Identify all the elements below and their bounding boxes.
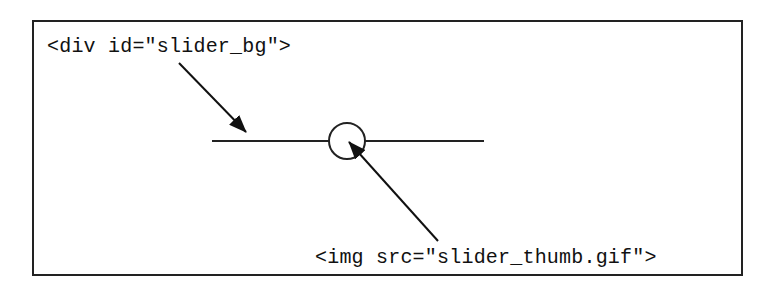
slider-diagram — [0, 0, 767, 290]
arrow-to-track — [179, 63, 246, 132]
arrow-to-thumb — [349, 142, 438, 241]
